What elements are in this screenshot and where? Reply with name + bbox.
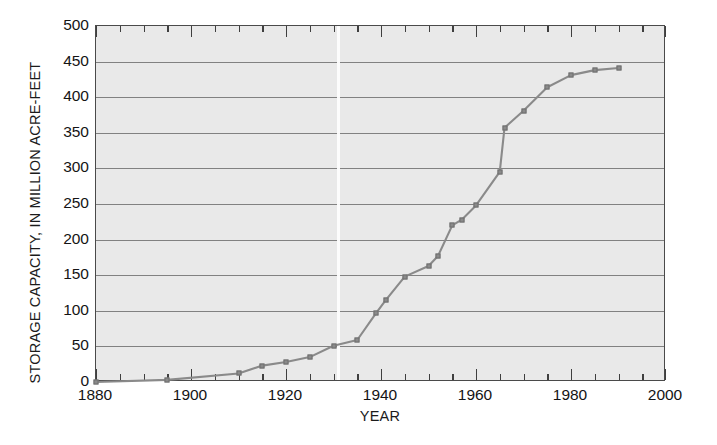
y-tick-label: 200 [43,230,89,248]
y-tick-label: 250 [43,194,89,212]
x-tick-label: 1920 [268,386,302,404]
x-tick-label: 1900 [173,386,207,404]
data-point-marker [616,66,621,71]
data-point-marker [521,108,526,113]
y-tick-label: 450 [43,52,89,70]
data-point-marker [497,169,502,174]
x-tick-label: 1880 [78,386,112,404]
x-tick-label: 1980 [553,386,587,404]
y-tick-label: 300 [43,158,89,176]
y-tick-label: 150 [43,265,89,283]
x-tick-label: 1940 [363,386,397,404]
data-point-marker [402,274,407,279]
data-point-marker [331,343,336,348]
y-tick-label: 350 [43,123,89,141]
data-point-marker [545,85,550,90]
data-point-marker [284,360,289,365]
data-point-marker [260,363,265,368]
data-point-marker [474,203,479,208]
data-point-marker [436,253,441,258]
x-tick-label: 1960 [458,386,492,404]
data-point-marker [374,310,379,315]
data-point-marker [569,73,574,78]
data-point-marker [426,263,431,268]
data-point-marker [355,337,360,342]
y-tick-label: 50 [43,336,89,354]
y-axis-tick-labels: 050100150200250300350400450500 [39,25,89,381]
y-tick-label: 400 [43,87,89,105]
data-point-marker [307,355,312,360]
chart-figure: STORAGE CAPACITY, IN MILLION ACRE-FEET 0… [0,0,717,445]
x-axis-tick-labels: 1880190019201940196019802000 [95,386,665,408]
data-point-marker [459,217,464,222]
data-point-marker [383,298,388,303]
data-series-line [96,26,666,382]
y-tick-label: 100 [43,301,89,319]
plot-area [95,25,665,381]
data-point-marker [450,223,455,228]
data-point-marker [236,371,241,376]
data-point-marker [502,125,507,130]
x-axis-title: YEAR [95,408,665,424]
data-point-marker [592,68,597,73]
x-tick-label: 2000 [648,386,682,404]
data-point-marker [165,377,170,382]
data-point-marker [94,380,99,385]
y-tick-label: 500 [43,16,89,34]
